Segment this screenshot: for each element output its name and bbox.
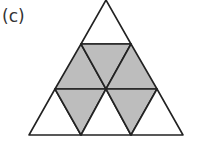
triangle-diagram (0, 0, 199, 144)
unshaded-triangle-r0-up (81, 0, 131, 44)
